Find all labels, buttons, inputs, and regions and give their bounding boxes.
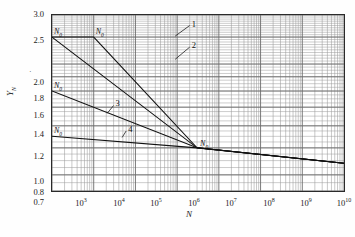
x-tick-label: 105 [136,196,176,208]
y-tick-label: 1.6 [14,111,44,120]
plot-area: N0N0N0N0N01234 [51,14,345,192]
x-tick-label: 109 [286,196,326,208]
annotation-labels: N0N0N0N0N01234 [53,19,208,150]
plot-canvas: N0N0N0N0N01234 [51,14,345,192]
y-tick-label: 2.0 [14,78,44,87]
y-tick-label: 2.5 [14,36,44,45]
x-tick-label: 107 [211,196,251,208]
y-tick-label: 1.8 [14,94,44,103]
y-tick-label: 0.7 [14,198,44,207]
x-tick-label: 108 [249,196,289,208]
y-tick-label: 1.4 [14,130,44,139]
x-tick-label: 104 [99,196,139,208]
svg-text:4: 4 [128,124,133,134]
y-tick-label: 0.8 [14,188,44,197]
svg-text:1: 1 [192,19,196,29]
y-tick-label: 3.0 [14,10,44,19]
svg-text:N0: N0 [53,126,62,137]
y-tick-label: 1.2 [14,152,44,161]
chart-figure: YN · N 3.0 2.5 2.0 1.8 1.6 1.4 1.2 1.0 0… [0,0,355,237]
svg-text:2: 2 [192,40,196,50]
x-tick-label: 1010 [324,196,355,208]
svg-text:N0: N0 [53,27,62,38]
svg-text:N0: N0 [95,27,104,38]
x-tick-label: 106 [174,196,214,208]
svg-text:3: 3 [116,98,120,108]
y-tick-label: 1.0 [14,177,44,186]
svg-text:N0: N0 [53,81,62,92]
y-axis-title-subscript: N [11,87,17,91]
x-axis-title: N [186,209,192,219]
chart-svg: N0N0N0N0N01234 [52,15,344,191]
x-tick-label: 103 [61,196,101,208]
decorative-dot: · [29,67,32,76]
